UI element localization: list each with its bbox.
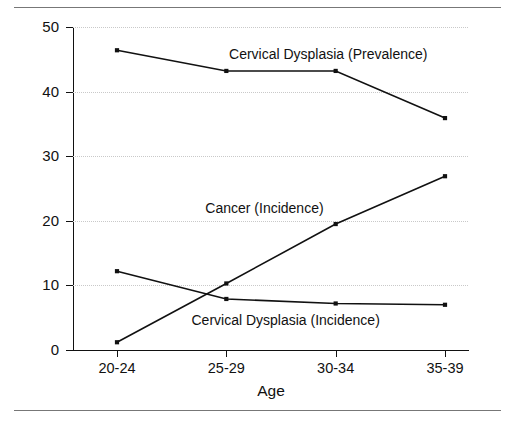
data-lines-layer	[73, 27, 468, 350]
y-tick-label: 40	[27, 84, 59, 99]
x-axis-line	[73, 350, 469, 351]
y-tick-label: 50	[27, 19, 59, 34]
data-point-marker	[224, 297, 228, 301]
x-tick	[336, 350, 337, 357]
data-point-marker	[443, 174, 447, 178]
y-tick-label: 0	[27, 342, 59, 357]
y-tick-label: 10	[27, 277, 59, 292]
x-tick-label: 25-29	[208, 361, 245, 376]
data-point-marker	[115, 340, 119, 344]
data-point-marker	[334, 222, 338, 226]
y-tick-label: 30	[27, 148, 59, 163]
data-point-marker	[115, 48, 119, 52]
data-point-marker	[443, 303, 447, 307]
data-point-marker	[334, 301, 338, 305]
series-label: Cancer (Incidence)	[205, 201, 323, 216]
y-tick	[66, 285, 73, 286]
data-point-marker	[443, 116, 447, 120]
data-point-marker	[224, 281, 228, 285]
x-tick	[117, 350, 118, 357]
y-tick	[66, 350, 73, 351]
x-tick-label: 35-39	[426, 361, 463, 376]
data-point-marker	[115, 269, 119, 273]
y-tick	[66, 221, 73, 222]
x-tick-label: 20-24	[98, 361, 135, 376]
plot-area: 01020304050 20-2425-2930-3435-39 Cervica…	[73, 27, 468, 350]
data-point-marker	[224, 69, 228, 73]
x-tick-label: 30-34	[317, 361, 354, 376]
y-tick	[66, 27, 73, 28]
series-line	[117, 271, 445, 305]
series-label: Cervical Dysplasia (Prevalence)	[229, 47, 427, 62]
figure-container: Rate * Age 01020304050 20-2425-2930-3435…	[0, 0, 515, 423]
top-divider-rule	[14, 7, 501, 8]
x-tick	[445, 350, 446, 357]
bottom-divider-rule	[14, 410, 501, 411]
y-tick	[66, 156, 73, 157]
data-point-marker	[334, 69, 338, 73]
x-axis-title: Age	[73, 382, 469, 400]
y-tick	[66, 92, 73, 93]
y-tick-label: 20	[27, 213, 59, 228]
x-tick	[226, 350, 227, 357]
series-label: Cervical Dysplasia (Incidence)	[192, 313, 380, 328]
